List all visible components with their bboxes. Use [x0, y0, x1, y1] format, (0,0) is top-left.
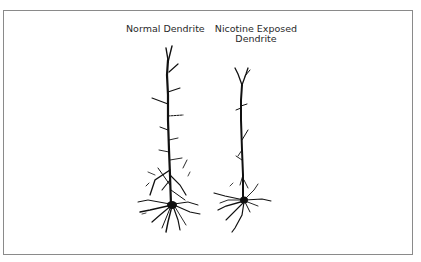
- neuron-illustrations: [0, 0, 421, 262]
- nicotine-neuron-drawing: [214, 68, 271, 232]
- normal-neuron-drawing: [138, 46, 200, 232]
